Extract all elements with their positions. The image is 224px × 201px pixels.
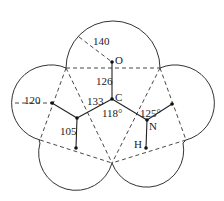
vdw-envelope — [12, 21, 215, 190]
atom-label-c: C — [115, 91, 122, 103]
atom-label-n: N — [149, 120, 157, 132]
label-angle-c: 118° — [102, 107, 123, 119]
right-lobe — [160, 65, 214, 140]
label-angle-n: 125° — [140, 107, 161, 119]
bottom-right-lobe — [112, 140, 186, 187]
label-radius-left: 120 — [24, 94, 41, 106]
bond-n-h — [146, 120, 147, 148]
bond-left — [52, 103, 77, 118]
label-c-c: 133 — [87, 95, 104, 107]
atom-label-h: H — [134, 138, 142, 150]
atom-label-o: O — [115, 54, 123, 66]
label-c-o: 126 — [96, 75, 113, 87]
molecule-diagram: 140 O 126 C 133 120 105 118° 125° N H — [0, 0, 224, 201]
label-radius-o: 140 — [93, 35, 110, 47]
label-left-vertical: 105 — [60, 125, 77, 137]
